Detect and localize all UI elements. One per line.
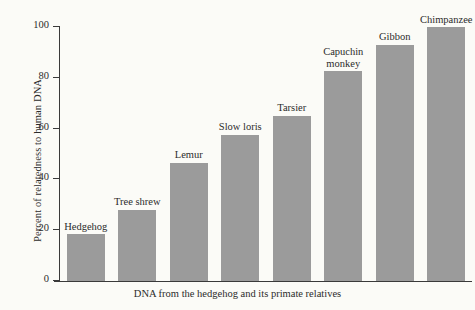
bar-rect[interactable]: [221, 135, 259, 281]
bar-chart-figure: Percent of relatedness to human DNA 0204…: [0, 0, 475, 310]
bar-label-line: Capuchin: [323, 46, 363, 58]
y-axis-tick: 20: [53, 229, 60, 230]
bar-rect[interactable]: [118, 210, 156, 281]
bar-label: Slow loris: [219, 121, 262, 133]
y-axis-tick: 100: [53, 26, 60, 27]
bar-group[interactable]: Slow loris: [221, 27, 259, 281]
y-axis-tick: 40: [53, 178, 60, 179]
plot-area: 020406080100 HedgehogTree shrewLemurSlow…: [60, 27, 472, 281]
bar-label: Gibbon: [379, 31, 411, 43]
x-axis-caption: DNA from the hedgehog and its primate re…: [0, 288, 475, 299]
bar-rect[interactable]: [67, 234, 105, 281]
bar-group[interactable]: Tree shrew: [118, 27, 156, 281]
bar-label: Hedgehog: [64, 221, 107, 233]
bar-label-line: Tarsier: [277, 102, 306, 114]
y-axis-tick-label: 40: [39, 171, 50, 182]
bar-label: Tree shrew: [114, 196, 161, 208]
y-axis-tick: 80: [53, 77, 60, 78]
y-axis-tick-label: 0: [44, 273, 49, 284]
bar-label: Chimpanzee: [420, 14, 472, 26]
y-axis-tick-label: 60: [39, 121, 50, 132]
bar-rect[interactable]: [170, 163, 208, 281]
bar-label: Capuchinmonkey: [323, 46, 363, 69]
bar-label: Tarsier: [277, 102, 306, 114]
bar-label: Lemur: [175, 149, 203, 161]
bar-group[interactable]: Capuchinmonkey: [324, 27, 362, 281]
y-axis-tick-label: 20: [39, 222, 50, 233]
bar-rect[interactable]: [427, 27, 465, 281]
bar-label-line: Chimpanzee: [420, 14, 472, 26]
y-axis-line: [59, 27, 60, 281]
bar-label-line: Tree shrew: [114, 196, 161, 208]
y-axis-tick-label: 80: [39, 70, 50, 81]
bar-label-line: monkey: [323, 58, 363, 70]
bar-label-line: Hedgehog: [64, 221, 107, 233]
bar-label-line: Gibbon: [379, 31, 411, 43]
bar-group[interactable]: Lemur: [170, 27, 208, 281]
bar-rect[interactable]: [273, 116, 311, 281]
bar-rect[interactable]: [376, 45, 414, 281]
bar-rect[interactable]: [324, 71, 362, 281]
bar-group[interactable]: Gibbon: [376, 27, 414, 281]
x-axis-line: [54, 281, 472, 282]
bar-label-line: Lemur: [175, 149, 203, 161]
y-axis-tick: 0: [53, 280, 60, 281]
y-axis-tick: 60: [53, 128, 60, 129]
bar-label-line: Slow loris: [219, 121, 262, 133]
bar-group[interactable]: Chimpanzee: [427, 27, 465, 281]
bar-group[interactable]: Tarsier: [273, 27, 311, 281]
y-axis-tick-label: 100: [33, 19, 49, 30]
bar-group[interactable]: Hedgehog: [67, 27, 105, 281]
